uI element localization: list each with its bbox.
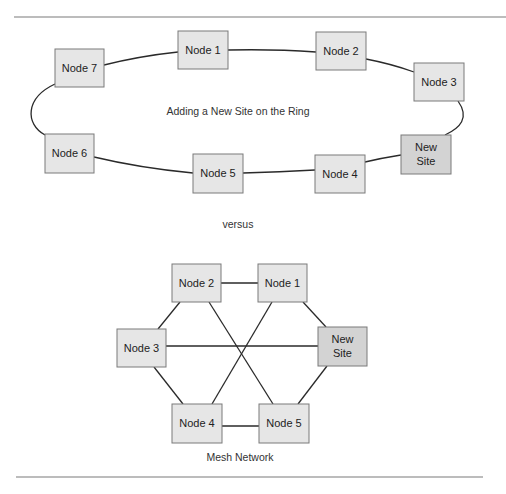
ring-node-6-label: Node 6 (52, 147, 87, 159)
ring-link-new-n4 (365, 155, 401, 162)
network-topology-diagram: Node 1 Node 2 Node 3 New Site Node 4 Nod… (0, 0, 506, 494)
ring-node-5: Node 5 (193, 154, 243, 193)
ring-node-7-label: Node 7 (62, 62, 97, 74)
ring-node-1: Node 1 (178, 31, 228, 69)
ring-link-n4-n5 (243, 170, 315, 173)
ring-node-3: Node 3 (414, 63, 464, 101)
mesh-node-1-label: Node 1 (265, 277, 300, 289)
ring-caption: Adding a New Site on the Ring (166, 105, 309, 117)
mesh-node-5-label: Node 5 (266, 417, 301, 429)
mesh-node-4-label: Node 4 (179, 417, 214, 429)
mesh-node-4: Node 4 (172, 404, 222, 443)
ring-link-n3-new (445, 101, 463, 135)
ring-node-5-label: Node 5 (200, 167, 235, 179)
mesh-node-2-label: Node 2 (179, 277, 214, 289)
mesh-node-2: Node 2 (172, 264, 221, 302)
ring-node-6: Node 6 (45, 134, 94, 173)
mesh-new-site-label-line1: New (331, 333, 353, 345)
mesh-new-site-label-line2: Site (333, 347, 352, 359)
ring-node-new-site: New Site (401, 135, 451, 174)
ring-node-2-label: Node 2 (323, 45, 358, 57)
ring-node-3-label: Node 3 (421, 76, 456, 88)
ring-node-7: Node 7 (55, 49, 104, 87)
ring-new-site-label-line2: Site (417, 155, 436, 167)
mesh-node-3: Node 3 (117, 329, 166, 367)
mesh-caption: Mesh Network (206, 451, 274, 463)
mesh-node-3-label: Node 3 (124, 342, 159, 354)
mesh-link-new-n5 (298, 366, 327, 404)
mesh-node-1: Node 1 (258, 264, 307, 302)
mesh-link-n1-new (303, 302, 326, 327)
ring-node-4-label: Node 4 (322, 168, 357, 180)
ring-node-4: Node 4 (315, 155, 365, 193)
ring-node-2: Node 2 (316, 32, 366, 70)
versus-label: versus (223, 218, 254, 230)
mesh-node-new-site: New Site (318, 327, 367, 366)
ring-link-n5-n6 (94, 157, 193, 173)
ring-link-n6-n7 (31, 84, 55, 135)
mesh-node-5: Node 5 (259, 404, 309, 443)
mesh-link-n2-n3 (158, 302, 180, 329)
ring-link-n2-n3 (366, 59, 414, 72)
ring-link-n1-n2 (228, 50, 316, 52)
ring-link-n7-n1 (104, 52, 178, 65)
mesh-link-n3-n4 (154, 367, 183, 404)
ring-node-1-label: Node 1 (185, 44, 220, 56)
ring-new-site-label-line1: New (415, 141, 437, 153)
